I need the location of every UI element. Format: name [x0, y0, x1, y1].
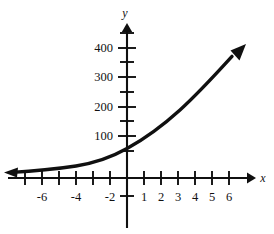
x-tick-label-1: 1 [141, 190, 147, 204]
y-axis-label: y [121, 6, 128, 20]
curve-group [4, 44, 246, 178]
x-tick-label-6: 6 [226, 190, 232, 204]
chart-svg: 400 300 200 100 -6 -4 -2 1 2 3 4 5 6 y x [0, 0, 274, 234]
x-tick-label-4: 4 [192, 190, 199, 204]
x-tick-label-3: 3 [175, 190, 181, 204]
y-tick-label-300: 300 [94, 70, 113, 84]
y-axis-arrowhead [122, 23, 132, 32]
y-tick-label-200: 200 [94, 100, 113, 114]
x-tick-label--4: -4 [71, 190, 82, 204]
x-tick-label--6: -6 [37, 190, 47, 204]
x-tick-label-2: 2 [158, 190, 164, 204]
exponential-function-graph: 400 300 200 100 -6 -4 -2 1 2 3 4 5 6 y x [0, 0, 274, 234]
curve-right-arrowhead [231, 44, 247, 61]
x-tick-label--2: -2 [105, 190, 115, 204]
x-axis-arrowhead [247, 173, 256, 184]
x-tick-label-5: 5 [209, 190, 215, 204]
y-tick-label-400: 400 [94, 41, 113, 55]
exponential-curve [12, 56, 232, 172]
y-tick-label-100: 100 [94, 129, 113, 143]
x-tick-labels: -6 -4 -2 1 2 3 4 5 6 [37, 190, 232, 204]
y-tick-labels: 400 300 200 100 [94, 41, 113, 143]
x-axis-label: x [259, 171, 266, 185]
curve-left-arrowhead [4, 168, 18, 178]
